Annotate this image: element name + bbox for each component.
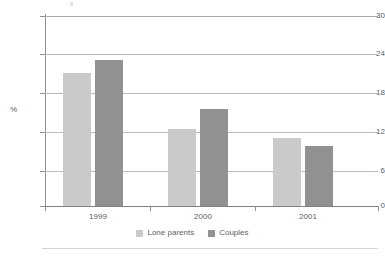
legend-label-couples: Couples (219, 229, 248, 237)
legend-item-couples: Couples (208, 229, 248, 237)
x-tick-mark-right (378, 206, 379, 211)
x-tick-mark-1 (150, 206, 151, 211)
bar-2000-couples (200, 109, 228, 206)
bar-2001-couples (305, 146, 333, 206)
chart-legend: Lone parents Couples (0, 229, 385, 237)
x-tick-label-1999: 1999 (62, 212, 134, 221)
y-axis-title: % (10, 106, 17, 114)
x-tick-mark-left (45, 206, 46, 211)
legend-swatch-icon-lone-parents (136, 230, 143, 237)
x-axis-line (45, 206, 379, 207)
stray-mark (70, 2, 73, 6)
bar-chart-figure: % 30 24 18 12 6 0 1999 2000 2001 (0, 0, 385, 259)
legend-item-lone-parents: Lone parents (136, 229, 194, 237)
bar-2000-lone-parents (168, 129, 196, 206)
footer-divider (42, 248, 378, 249)
plot-area (45, 16, 378, 206)
gridline-24 (45, 54, 378, 55)
bar-1999-couples (95, 60, 123, 206)
gridline-30 (45, 16, 378, 17)
bar-2001-lone-parents (273, 138, 301, 206)
bar-1999-lone-parents (63, 73, 91, 206)
x-tick-mark-2 (255, 206, 256, 211)
legend-label-lone-parents: Lone parents (147, 229, 194, 237)
legend-swatch-icon-couples (208, 230, 215, 237)
x-tick-label-2001: 2001 (272, 212, 344, 221)
x-tick-label-2000: 2000 (167, 212, 239, 221)
